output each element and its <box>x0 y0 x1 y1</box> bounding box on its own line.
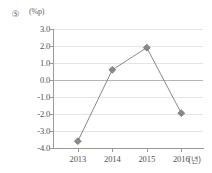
x-tick-label: 2016 <box>164 154 198 164</box>
x-tick-mark <box>147 149 148 152</box>
y-tick-mark <box>50 131 53 132</box>
x-tick-label: 2015 <box>130 154 164 164</box>
y-tick-mark <box>50 148 53 149</box>
x-tick-mark <box>78 149 79 152</box>
data-point-marker <box>143 44 150 51</box>
y-tick-mark <box>50 46 53 47</box>
series-layer <box>0 0 212 173</box>
y-tick-mark <box>50 29 53 30</box>
x-tick-label: 2014 <box>95 154 129 164</box>
series-line <box>78 48 181 142</box>
data-point-marker <box>109 66 116 73</box>
y-tick-mark <box>50 114 53 115</box>
x-tick-mark <box>181 149 182 152</box>
y-tick-mark <box>50 80 53 81</box>
data-point-marker <box>74 138 81 145</box>
y-tick-mark <box>50 97 53 98</box>
series-markers <box>74 44 184 144</box>
data-point-marker <box>178 110 185 117</box>
x-tick-label: 2013 <box>61 154 95 164</box>
x-tick-mark <box>112 149 113 152</box>
chart-figure: ⑤ (%p) (년) 3.02.01.00.0-1.0-2.0-3.0-4.0 … <box>0 0 212 173</box>
y-tick-mark <box>50 63 53 64</box>
